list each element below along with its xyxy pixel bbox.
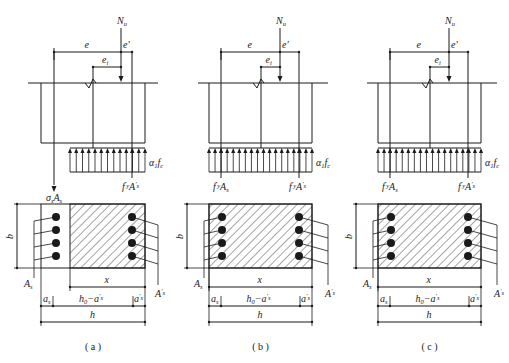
stress-arrow-icon bbox=[106, 148, 110, 153]
label-alpha1-fc: α1fc bbox=[149, 157, 163, 169]
load-arrow-icon bbox=[119, 76, 124, 82]
caption-b: ( b ) bbox=[252, 341, 269, 353]
dimension-dot bbox=[355, 203, 357, 205]
panel-a: Nuee'eiα1fcσsAsf'yA'sbAsA'sxash0−a'sa'sh… bbox=[4, 15, 166, 353]
label-left-force: f'yAs bbox=[382, 180, 398, 193]
label-as-prime: a's bbox=[134, 292, 143, 304]
stress-arrow-icon bbox=[304, 148, 308, 153]
label-h0-minus-as-prime: h0−a's bbox=[416, 292, 440, 305]
label-b: b bbox=[4, 234, 15, 239]
stress-arrow-icon bbox=[394, 148, 398, 153]
stress-arrow-icon bbox=[443, 148, 447, 153]
rebar-right bbox=[128, 252, 136, 260]
stress-arrow-icon bbox=[280, 148, 284, 153]
stress-arrow-icon bbox=[418, 148, 422, 153]
dimension-dot bbox=[480, 286, 482, 288]
stress-arrow-icon bbox=[219, 148, 223, 153]
stress-arrow-icon bbox=[137, 148, 141, 153]
stress-arrow-icon bbox=[376, 148, 380, 153]
dimension-dot bbox=[144, 305, 146, 307]
label-as-prime: a's bbox=[470, 292, 479, 304]
dimension-dot bbox=[311, 321, 313, 323]
label-h0-minus-as-prime: h0−a's bbox=[79, 292, 103, 305]
stress-arrow-icon bbox=[473, 148, 477, 153]
label-As-prime: A's bbox=[154, 287, 166, 299]
load-label-Nu: Nu bbox=[116, 15, 128, 27]
dimension-dot bbox=[40, 305, 42, 307]
stress-arrow-icon bbox=[81, 148, 85, 153]
dimension-dot bbox=[16, 267, 18, 269]
stress-arrow-icon bbox=[262, 148, 266, 153]
label-b: b bbox=[343, 234, 354, 239]
label-e: e bbox=[417, 39, 422, 50]
stress-arrow-icon bbox=[424, 148, 428, 153]
label-x: x bbox=[104, 274, 110, 285]
stress-arrow-icon bbox=[68, 148, 72, 153]
dimension-dot bbox=[429, 66, 431, 68]
stress-arrow-icon bbox=[382, 148, 386, 153]
label-As-prime: A's bbox=[324, 287, 336, 299]
dimension-dot bbox=[120, 51, 122, 53]
load-label-Nu: Nu bbox=[275, 15, 287, 27]
label-as: as bbox=[380, 293, 388, 305]
stress-arrow-icon bbox=[406, 148, 410, 153]
stress-arrow-icon bbox=[249, 148, 253, 153]
label-as: as bbox=[43, 293, 51, 305]
label-ei: ei bbox=[102, 54, 108, 66]
label-e-prime: e' bbox=[282, 39, 289, 50]
stress-arrow-icon bbox=[412, 148, 416, 153]
dimension-dot bbox=[208, 305, 210, 307]
stress-arrow-icon bbox=[268, 148, 272, 153]
stress-arrow-icon bbox=[388, 148, 392, 153]
dimension-dot bbox=[311, 286, 313, 288]
label-e: e bbox=[248, 39, 253, 50]
label-ei: ei bbox=[266, 54, 272, 66]
load-arrow-icon bbox=[278, 76, 283, 82]
caption-c: ( c ) bbox=[421, 341, 437, 353]
dimension-dot bbox=[120, 66, 122, 68]
stress-arrow-icon bbox=[437, 148, 441, 153]
dimension-dot bbox=[377, 305, 379, 307]
label-right-force: f'yA's bbox=[122, 180, 140, 192]
stress-arrow-icon bbox=[237, 148, 241, 153]
dimension-dot bbox=[279, 66, 281, 68]
label-h0-minus-as-prime: h0−a's bbox=[247, 292, 271, 305]
label-right-force: f'yA's bbox=[289, 180, 307, 192]
diagram-canvas: Nuee'eiα1fcσsAsf'yA'sbAsA'sxash0−a'sa'sh… bbox=[0, 0, 509, 363]
stress-arrow-icon bbox=[213, 148, 217, 153]
label-left-force: σsAs bbox=[46, 192, 63, 204]
stress-arrow-icon bbox=[255, 148, 259, 153]
stress-arrow-icon bbox=[274, 148, 278, 153]
label-h: h bbox=[427, 309, 432, 320]
dimension-dot bbox=[448, 66, 450, 68]
dimension-dot bbox=[16, 203, 18, 205]
dimension-dot bbox=[260, 66, 262, 68]
label-h: h bbox=[90, 309, 95, 320]
label-ei: ei bbox=[435, 54, 441, 66]
stress-arrow-icon bbox=[93, 148, 97, 153]
stress-arrow-icon bbox=[461, 148, 465, 153]
label-As-prime: A's bbox=[493, 287, 505, 299]
stress-arrow-icon bbox=[225, 148, 229, 153]
stress-arrow-icon bbox=[207, 148, 211, 153]
dimension-dot bbox=[480, 305, 482, 307]
dimension-dot bbox=[377, 321, 379, 323]
stress-arrow-icon bbox=[243, 148, 247, 153]
label-as: as bbox=[211, 293, 219, 305]
dimension-dot bbox=[448, 51, 450, 53]
stress-arrow-icon bbox=[74, 148, 78, 153]
stress-arrow-icon bbox=[99, 148, 103, 153]
dimension-dot bbox=[69, 286, 71, 288]
stress-arrow-icon bbox=[143, 148, 147, 153]
label-left-force: f'yAs bbox=[213, 180, 229, 193]
label-right-force: f'yA's bbox=[458, 180, 476, 192]
panel-b: Nuee'eiα1fcf'yAsf'yA'sbAsA'sxash0−a'sa's… bbox=[174, 15, 336, 353]
stress-arrow-icon bbox=[231, 148, 235, 153]
label-As: As bbox=[362, 278, 372, 290]
load-label-Nu: Nu bbox=[444, 15, 456, 27]
label-e-prime: e' bbox=[451, 39, 458, 50]
stress-arrow-icon bbox=[292, 148, 296, 153]
stress-arrow-icon bbox=[112, 148, 116, 153]
panel-c: Nuee'eiα1fcf'yAsf'yA'sbAsA'sxash0−a'sa's… bbox=[343, 15, 505, 353]
label-alpha1-fc: α1fc bbox=[485, 157, 499, 169]
